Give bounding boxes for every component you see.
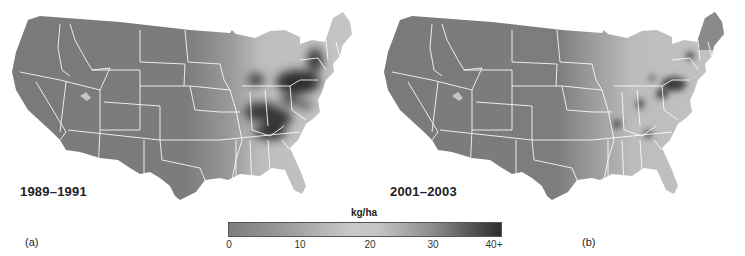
legend-tick-40plus: 40+	[486, 239, 503, 250]
legend-tick-0: 0	[226, 239, 232, 250]
us-map-1989-1991	[0, 0, 372, 210]
map-panel-1989-1991	[0, 0, 372, 210]
legend-tick-20: 20	[364, 239, 375, 250]
legend-gradient-bar	[228, 222, 502, 237]
period-label-b: 2001–2003	[390, 184, 457, 199]
legend-tick-30: 30	[427, 239, 438, 250]
legend-tick-10: 10	[294, 239, 305, 250]
legend-unit-label: kg/ha	[226, 207, 502, 218]
period-label-a: 1989–1991	[20, 184, 87, 199]
panel-letter-b: (b)	[582, 236, 595, 248]
panel-letter-a: (a)	[25, 236, 38, 248]
map-panel-2001-2003	[372, 0, 744, 210]
us-map-2001-2003	[372, 0, 744, 210]
color-legend: kg/ha 0 10 20 30 40+	[226, 207, 502, 255]
